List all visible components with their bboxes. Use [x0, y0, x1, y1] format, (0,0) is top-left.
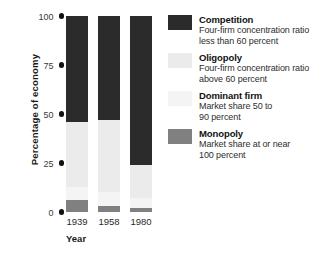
legend-item-description-line2: 100 percent	[199, 150, 313, 161]
legend-item: Dominant firmMarket share 50 to90 percen…	[168, 90, 313, 123]
bar-segment	[130, 198, 152, 208]
legend-item-description-line2: 90 percent	[199, 112, 313, 123]
bar-segment	[66, 200, 88, 212]
bar-segment	[130, 165, 152, 198]
y-axis-tick-label: 75	[43, 61, 53, 70]
legend-item: MonopolyMarket share at or near100 perce…	[168, 128, 313, 161]
y-axis-tick-label: 0	[48, 208, 53, 217]
legend-swatch-icon	[168, 129, 192, 144]
bar-stack	[66, 16, 88, 212]
legend-swatch-icon	[168, 91, 192, 106]
bar-segment	[130, 208, 152, 212]
legend-item-description-line1: Market share at or near	[199, 139, 313, 150]
chart-figure: Percentage of economy 1007550250 1939195…	[0, 0, 315, 265]
x-axis-title: Year	[66, 233, 86, 244]
bar-stack	[98, 16, 120, 212]
bar-segment	[98, 192, 120, 206]
plot-area	[66, 16, 152, 212]
bar-segment	[98, 120, 120, 193]
legend-swatch-icon	[168, 53, 192, 68]
y-axis-tick-dot-icon	[59, 13, 65, 19]
y-axis-tick-label: 25	[43, 159, 53, 168]
bar-segment	[130, 16, 152, 165]
legend-text: MonopolyMarket share at or near100 perce…	[199, 128, 313, 161]
chart-legend: CompetitionFour-firm concentration ratio…	[168, 14, 313, 166]
legend-text: OligopolyFour-firm concentration ratioab…	[199, 52, 313, 85]
x-axis-tick-label: 1980	[126, 216, 156, 227]
legend-item-description-line1: Four-firm concentration ratio	[199, 25, 313, 36]
legend-item-description-line1: Four-firm concentration ratio	[199, 63, 313, 74]
legend-item-description-line2: less than 60 percent	[199, 36, 313, 47]
y-axis-tick-dot-icon	[59, 209, 65, 215]
y-axis-tick-dot-icon	[59, 111, 65, 117]
legend-item-label: Competition	[199, 14, 313, 25]
legend-item-label: Monopoly	[199, 128, 313, 139]
bar-stack	[130, 16, 152, 212]
legend-item-description-line1: Market share 50 to	[199, 101, 313, 112]
bar-segment	[98, 16, 120, 120]
y-axis-ticks: 1007550250	[24, 16, 64, 212]
legend-item-description-line2: above 60 percent	[199, 74, 313, 85]
bar-segment	[66, 16, 88, 122]
x-axis-tick-label: 1939	[62, 216, 92, 227]
legend-text: CompetitionFour-firm concentration ratio…	[199, 14, 313, 47]
legend-item-label: Dominant firm	[199, 90, 313, 101]
legend-item: CompetitionFour-firm concentration ratio…	[168, 14, 313, 47]
legend-swatch-icon	[168, 15, 192, 30]
x-axis-ticks: 193919581980	[66, 216, 152, 230]
legend-text: Dominant firmMarket share 50 to90 percen…	[199, 90, 313, 123]
legend-item: OligopolyFour-firm concentration ratioab…	[168, 52, 313, 85]
x-axis-tick-label: 1958	[94, 216, 124, 227]
y-axis-tick-label: 100	[38, 12, 53, 21]
y-axis-tick-dot-icon	[59, 160, 65, 166]
legend-item-label: Oligopoly	[199, 52, 313, 63]
bar-segment	[98, 206, 120, 212]
bar-segment	[66, 187, 88, 201]
bar-segment	[66, 122, 88, 187]
y-axis-tick-label: 50	[43, 110, 53, 119]
y-axis-tick-dot-icon	[59, 62, 65, 68]
